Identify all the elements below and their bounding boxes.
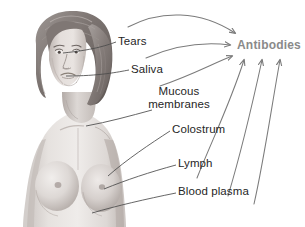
label-saliva: Saliva — [131, 63, 163, 76]
label-colostrum: Colostrum — [172, 123, 225, 136]
label-mucous-line-1: Mucous — [159, 85, 200, 97]
diagram-canvas: Tears Saliva Mucous membranes Colostrum … — [0, 0, 305, 227]
label-lymph: Lymph — [178, 157, 213, 170]
label-mucous-membranes: Mucous membranes — [143, 85, 215, 110]
label-blood-plasma: Blood plasma — [178, 185, 249, 198]
label-layer: Tears Saliva Mucous membranes Colostrum … — [0, 0, 305, 227]
label-mucous-line-2: membranes — [148, 98, 210, 110]
label-tears: Tears — [118, 35, 147, 48]
label-antibodies: Antibodies — [237, 38, 301, 52]
